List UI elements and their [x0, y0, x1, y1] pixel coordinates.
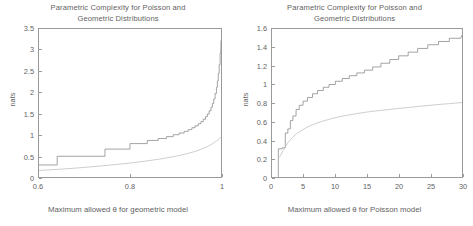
y-tick-mark	[272, 66, 275, 67]
x-tick-mark	[38, 174, 39, 177]
y-tick-mark	[39, 178, 42, 179]
y-tick-mark	[272, 103, 275, 104]
y-tick-label: 1	[12, 131, 34, 140]
x-tick-mark	[431, 174, 432, 177]
x-tick-label: 20	[395, 182, 403, 191]
x-tick-label: 0.8	[125, 182, 135, 191]
y-tick-mark	[39, 28, 42, 29]
chart-panel-geometric: Parametric Complexity for Poisson and Ge…	[0, 0, 236, 226]
y-axis-label-left: nats	[8, 80, 17, 120]
y-tick-mark	[39, 71, 42, 72]
x-axis-label-left: Maximum allowed θ for geometric model	[0, 205, 236, 214]
curve-upper-staircase	[39, 40, 221, 165]
y-tick-mark	[39, 135, 42, 136]
x-tick-label: 0.6	[33, 182, 43, 191]
x-tick-label: 0	[269, 182, 273, 191]
x-axis-label-right: Maximum allowed θ for Poisson model	[236, 205, 473, 214]
curve-lower-curve	[39, 137, 221, 171]
y-tick-mark	[39, 114, 42, 115]
y-tick-mark	[272, 122, 275, 123]
chart-title-right-line1: Parametric Complexity for Poisson and	[236, 2, 473, 13]
y-tick-label: 2.5	[12, 66, 34, 75]
x-tick-label: 25	[427, 182, 435, 191]
x-tick-label: 30	[459, 182, 467, 191]
y-tick-label: 3	[12, 45, 34, 54]
x-tick-mark	[335, 174, 336, 177]
chart-title-right: Parametric Complexity for Poisson and Ge…	[236, 2, 473, 24]
y-tick-label: 1.2	[245, 61, 267, 70]
y-tick-label: 3.5	[12, 24, 34, 33]
y-tick-label: 0.2	[245, 155, 267, 164]
x-tick-label: 10	[331, 182, 339, 191]
y-tick-mark	[272, 141, 275, 142]
y-tick-mark	[272, 178, 275, 179]
x-tick-label: 15	[363, 182, 371, 191]
y-tick-label: 1.6	[245, 24, 267, 33]
y-tick-label: 0.4	[245, 136, 267, 145]
x-tick-mark	[399, 174, 400, 177]
x-tick-label: 1	[220, 182, 224, 191]
y-tick-mark	[39, 49, 42, 50]
y-tick-mark	[272, 47, 275, 48]
x-tick-mark	[367, 174, 368, 177]
y-tick-label: 0	[12, 174, 34, 183]
plot-area-right	[271, 28, 463, 178]
plot-curves-right	[272, 29, 462, 177]
y-tick-mark	[39, 92, 42, 93]
chart-title-left-line2: Geometric Distributions	[0, 13, 236, 24]
y-tick-label: 0	[245, 174, 267, 183]
x-tick-mark	[463, 174, 464, 177]
y-tick-mark	[272, 159, 275, 160]
plot-curves-left	[39, 29, 221, 177]
x-tick-mark	[130, 174, 131, 177]
x-tick-mark	[303, 174, 304, 177]
chart-title-left: Parametric Complexity for Poisson and Ge…	[0, 2, 236, 24]
y-tick-label: 0.5	[12, 152, 34, 161]
x-tick-mark	[271, 174, 272, 177]
x-tick-label: 5	[301, 182, 305, 191]
y-tick-mark	[39, 157, 42, 158]
y-tick-label: 1.4	[245, 42, 267, 51]
plot-area-left	[38, 28, 222, 178]
chart-panel-poisson: Parametric Complexity for Poisson and Ge…	[236, 0, 473, 226]
curve-lower-curve	[278, 103, 462, 159]
y-tick-mark	[272, 84, 275, 85]
y-tick-mark	[272, 28, 275, 29]
chart-title-right-line2: Geometric Distributions	[236, 13, 473, 24]
figure-parametric-complexity: Parametric Complexity for Poisson and Ge…	[0, 0, 473, 226]
chart-title-left-line1: Parametric Complexity for Poisson and	[0, 2, 236, 13]
x-tick-mark	[222, 174, 223, 177]
curve-upper-staircase	[278, 35, 462, 177]
y-axis-label-right: nats	[241, 80, 250, 120]
